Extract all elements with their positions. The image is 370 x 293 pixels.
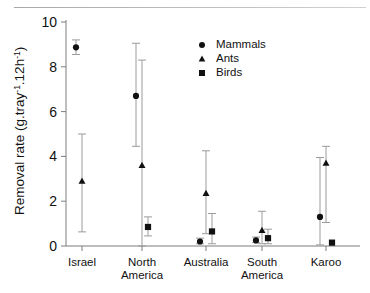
triangle-marker — [259, 227, 266, 233]
y-axis-title-mid: .12h — [12, 59, 27, 85]
x-axis-ticks — [82, 246, 326, 251]
y-tick-label: 8 — [49, 59, 57, 75]
legend-label: Birds — [216, 66, 242, 78]
scan-artifact-line — [14, 7, 366, 8]
legend-label: Ants — [216, 52, 239, 64]
circle-marker — [133, 93, 139, 99]
x-category-label: Karoo — [311, 256, 342, 268]
legend-circle-icon — [199, 42, 205, 48]
x-category-label: North — [128, 256, 156, 268]
y-tick-label: 6 — [49, 104, 57, 120]
y-axis-tick-labels: 0246810 — [41, 14, 57, 254]
square-marker — [329, 240, 335, 246]
removal-rate-scatter-plot: 0246810 IsraelNorthAmericaAustraliaSouth… — [0, 0, 370, 293]
y-axis-title: Removal rate (g.tray-1.12h-1) — [12, 47, 27, 215]
circle-marker — [317, 214, 323, 220]
x-category-label: Australia — [184, 256, 229, 268]
chart-figure: 0246810 IsraelNorthAmericaAustraliaSouth… — [0, 0, 370, 293]
square-marker — [265, 235, 271, 241]
svg-text:Removal rate (g.tray-1.12h-1): Removal rate (g.tray-1.12h-1) — [12, 47, 27, 215]
y-tick-label: 2 — [49, 193, 57, 209]
circle-marker — [197, 238, 203, 244]
x-category-label-line2: America — [241, 269, 284, 281]
square-marker — [209, 228, 215, 234]
x-category-label: Israel — [68, 256, 96, 268]
x-axis-category-labels: IsraelNorthAmericaAustraliaSouthAmericaK… — [68, 256, 341, 281]
triangle-marker — [323, 160, 330, 166]
y-tick-label: 4 — [49, 148, 57, 164]
y-tick-label: 0 — [49, 238, 57, 254]
y-axis-title-end: ) — [12, 47, 27, 52]
legend-label: Mammals — [216, 38, 266, 50]
circle-marker — [253, 237, 259, 243]
y-axis-ticks — [61, 22, 66, 246]
legend: MammalsAntsBirds — [199, 38, 266, 78]
triangle-marker — [79, 177, 86, 183]
legend-square-icon — [199, 70, 205, 76]
circle-marker — [73, 44, 79, 50]
legend-triangle-icon — [199, 56, 206, 62]
triangle-marker — [203, 190, 210, 196]
x-category-label-line2: America — [121, 269, 164, 281]
x-category-label: South — [247, 256, 277, 268]
triangle-marker — [139, 162, 146, 168]
y-axis-title-main: Removal rate (g.tray — [12, 92, 27, 215]
square-marker — [145, 224, 151, 230]
y-tick-label: 10 — [41, 14, 57, 30]
